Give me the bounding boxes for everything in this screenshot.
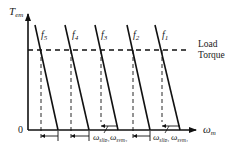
curve-f2: f2: [127, 25, 150, 141]
curve-f3: f3: [95, 25, 118, 130]
omega-sym-1-label: ωsym1: [171, 132, 188, 142]
omega-slip-1-label: ωslip1: [153, 132, 169, 142]
svg-text:f3: f3: [101, 29, 108, 42]
origin-label: 0: [18, 124, 23, 135]
svg-text:f4: f4: [72, 29, 79, 42]
curve-f1: f1: [155, 25, 180, 130]
omega-slip-3-label: ωslip3: [93, 132, 109, 142]
svg-text:f5: f5: [41, 29, 48, 42]
curve-f4: f4: [65, 25, 89, 141]
load-torque-label: Load Torque: [198, 39, 225, 60]
svg-text:f2: f2: [133, 29, 140, 42]
omega-sym-3-label: ωsym3: [110, 132, 127, 142]
y-axis-label: Tem: [9, 5, 23, 19]
torque-speed-diagram: Tem ωm 0 Load Torque f5 f4 f3 f2: [0, 0, 233, 142]
x-axis-label: ωm: [203, 123, 216, 137]
curve-f5: f5: [35, 25, 58, 141]
svg-text:f1: f1: [162, 29, 168, 42]
